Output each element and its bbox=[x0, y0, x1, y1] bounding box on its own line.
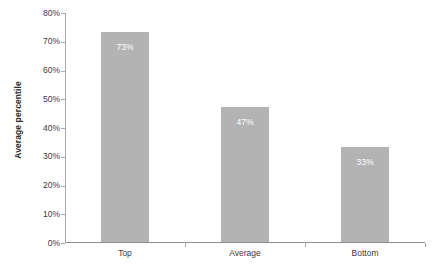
y-axis-tick-label: 70% bbox=[26, 37, 60, 46]
y-axis-tick-mark bbox=[61, 42, 65, 43]
y-axis-tick-label: 10% bbox=[26, 210, 60, 219]
x-axis-category-label: Bottom bbox=[305, 248, 425, 258]
x-axis-tick-mark bbox=[305, 243, 306, 247]
x-axis-category-label: Average bbox=[185, 248, 305, 258]
y-axis-tick-label: 0% bbox=[26, 239, 60, 248]
y-axis-tick-label: 20% bbox=[26, 181, 60, 190]
y-axis-tick-mark bbox=[61, 128, 65, 129]
x-axis-category-label: Top bbox=[65, 248, 185, 258]
y-axis-tick-mark bbox=[61, 214, 65, 215]
y-axis-tick-mark bbox=[61, 99, 65, 100]
bar[interactable]: 73% bbox=[101, 32, 149, 242]
y-axis-tick-mark bbox=[61, 157, 65, 158]
bar-value-label: 47% bbox=[221, 118, 269, 127]
y-axis-tick-label: 80% bbox=[26, 9, 60, 18]
y-axis-tick-mark bbox=[61, 71, 65, 72]
bar[interactable]: 33% bbox=[341, 147, 389, 242]
x-axis-tick-mark bbox=[185, 243, 186, 247]
bar-chart: Average percentile 0%10%20%30%40%50%60%7… bbox=[0, 0, 437, 279]
y-axis-tick-label: 50% bbox=[26, 95, 60, 104]
bar[interactable]: 47% bbox=[221, 107, 269, 242]
y-axis-tick-mark bbox=[61, 243, 65, 244]
x-axis-line bbox=[65, 242, 425, 243]
bar-value-label: 33% bbox=[341, 158, 389, 167]
bar-value-label: 73% bbox=[101, 43, 149, 52]
y-axis-tick-label: 40% bbox=[26, 124, 60, 133]
y-axis-tick-label: 30% bbox=[26, 152, 60, 161]
y-axis-tick-label: 60% bbox=[26, 66, 60, 75]
y-axis-tick-mark bbox=[61, 13, 65, 14]
y-axis-title: Average percentile bbox=[13, 55, 23, 185]
y-axis-tick-labels: 0%10%20%30%40%50%60%70%80% bbox=[26, 0, 60, 279]
plot-area: 73%47%33% bbox=[65, 13, 425, 243]
x-axis-tick-mark bbox=[425, 243, 426, 247]
y-axis-tick-mark bbox=[61, 186, 65, 187]
y-axis-line bbox=[65, 13, 66, 243]
